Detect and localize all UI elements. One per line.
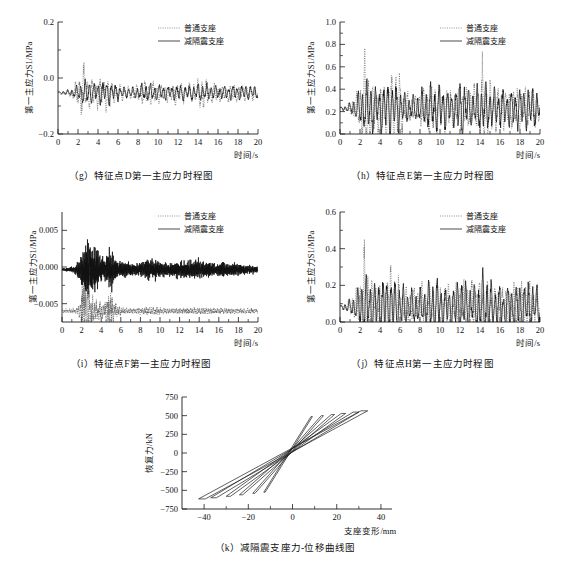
x-tick-label: 20: [254, 325, 263, 335]
panel-j-chart: 0.00.20.40.602468101214161820时间/s第一主应力S1…: [282, 190, 563, 360]
traces-group: [340, 239, 540, 322]
legend: 普通支座减隔震支座: [440, 211, 506, 234]
y-tick-label: −250: [160, 467, 178, 477]
x-tick-label: 4: [378, 137, 383, 147]
legend: 普通支座减隔震支座: [440, 23, 506, 46]
x-tick-label: 10: [436, 137, 445, 147]
y-tick-label: 0.0: [325, 317, 336, 327]
x-tick-label: 10: [156, 325, 165, 335]
x-tick-label: 14: [476, 137, 485, 147]
x-tick-label: 14: [476, 325, 485, 335]
x-tick-label: 0: [60, 325, 64, 335]
x-axis-title: 时间/s: [516, 150, 540, 160]
panel-h-chart: 0.00.20.40.60.81.002468101214161820时间/s第…: [282, 0, 563, 172]
x-tick-label: 2: [358, 137, 362, 147]
traces-group: [62, 239, 258, 322]
y-tick-label: 0.0: [43, 73, 54, 83]
x-tick-label: 4: [99, 325, 104, 335]
panel-g: −0.20.00.202468101214161820时间/s第一主应力S1/M…: [0, 0, 282, 190]
x-tick-label: −40: [197, 512, 210, 522]
y-tick-label: 0.2: [325, 280, 336, 290]
y-tick-label: −500: [160, 485, 178, 495]
legend-dotted-label: 普通支座: [466, 211, 498, 221]
y-tick-label: 1.0: [325, 17, 336, 27]
x-tick-label: 2: [76, 137, 80, 147]
traces-group: [340, 48, 540, 134]
hysteresis-loop: [199, 411, 368, 499]
x-tick-label: 10: [436, 325, 445, 335]
x-tick-label: 0: [56, 137, 60, 147]
legend-solid-label: 减隔震支座: [184, 36, 224, 46]
legend-dotted-label: 普通支座: [184, 211, 216, 221]
panel-g-plot: −0.20.00.202468101214161820时间/s第一主应力S1/M…: [24, 17, 262, 160]
panel-h-caption: （h）特征点E第一主应力时程图: [282, 168, 563, 182]
panel-i-caption: （i）特征点F第一主应力时程图: [0, 356, 282, 370]
x-tick-label: 40: [377, 512, 386, 522]
x-tick-label: 6: [119, 325, 123, 335]
y-tick-label: 500: [165, 411, 178, 421]
y-axis-title: 第一主应力S1/MPa: [306, 231, 316, 304]
series-solid-trace: [58, 79, 258, 106]
x-tick-label: 20: [332, 512, 341, 522]
x-tick-label: 12: [456, 325, 465, 335]
y-tick-label: 0.8: [325, 39, 336, 49]
y-tick-label: 0.6: [325, 207, 336, 217]
x-tick-label: 6: [116, 137, 120, 147]
x-tick-label: 16: [496, 325, 505, 335]
x-tick-label: 0: [338, 137, 342, 147]
loops-group: [199, 411, 368, 499]
x-tick-label: 18: [234, 325, 243, 335]
y-tick-label: 250: [165, 429, 178, 439]
x-tick-label: 16: [496, 137, 505, 147]
x-axis-title: 时间/s: [234, 338, 258, 348]
figure-container: −0.20.00.202468101214161820时间/s第一主应力S1/M…: [0, 0, 563, 571]
y-tick-label: 0.6: [325, 62, 336, 72]
x-tick-label: 18: [516, 325, 525, 335]
y-tick-label: 750: [165, 392, 178, 402]
panel-i-plot: −0.0050.0000.00502468101214161820时间/s第一主…: [28, 211, 262, 348]
x-tick-label: 8: [418, 325, 422, 335]
x-tick-label: 8: [418, 137, 422, 147]
y-tick-label: 0.000: [39, 262, 58, 272]
legend-dotted-label: 普通支座: [466, 23, 498, 33]
y-tick-label: 0.2: [325, 107, 336, 117]
x-tick-label: 6: [398, 137, 402, 147]
panel-j: 0.00.20.40.602468101214161820时间/s第一主应力S1…: [282, 190, 563, 380]
panel-g-caption: （g）特征点D第一主应力时程图: [0, 168, 282, 182]
y-tick-label: −0.2: [39, 129, 54, 139]
series-dotted-trace: [58, 62, 258, 115]
x-tick-label: 20: [536, 137, 545, 147]
x-tick-label: 8: [136, 137, 140, 147]
panel-h: 0.00.20.40.60.81.002468101214161820时间/s第…: [282, 0, 563, 190]
y-axis-title: 第一主应力S1/MPa: [306, 42, 316, 115]
panel-j-plot: 0.00.20.40.602468101214161820时间/s第一主应力S1…: [306, 207, 544, 348]
traces-group: [58, 62, 258, 115]
legend-solid-label: 减隔震支座: [466, 36, 506, 46]
x-tick-label: 20: [254, 137, 263, 147]
x-tick-label: 18: [234, 137, 243, 147]
panel-g-chart: −0.20.00.202468101214161820时间/s第一主应力S1/M…: [0, 0, 282, 172]
x-tick-label: 0: [338, 325, 342, 335]
x-tick-label: 2: [358, 325, 362, 335]
y-tick-label: 0.2: [43, 17, 54, 27]
x-tick-label: 14: [194, 137, 203, 147]
x-tick-label: −20: [242, 512, 255, 522]
x-tick-label: 12: [175, 325, 184, 335]
x-tick-label: 16: [215, 325, 224, 335]
x-tick-label: 12: [174, 137, 183, 147]
y-axis-title: 第一主应力S1/MPa: [28, 231, 38, 304]
x-tick-label: 2: [79, 325, 83, 335]
x-tick-label: 10: [154, 137, 163, 147]
x-tick-label: 6: [398, 325, 402, 335]
panel-k-chart: −750−500−2500250500750−40−2002040支座变形/mm…: [120, 385, 450, 545]
legend: 普通支座减隔震支座: [158, 211, 224, 234]
panel-h-plot: 0.00.20.40.60.81.002468101214161820时间/s第…: [306, 17, 544, 160]
x-tick-label: 12: [456, 137, 465, 147]
y-axis-title: 第一主应力S1/MPa: [24, 42, 34, 115]
panel-k-plot: −750−500−2500250500750−40−2002040支座变形/mm…: [144, 392, 396, 536]
x-axis-title: 时间/s: [516, 338, 540, 348]
series-solid-trace: [340, 79, 540, 134]
x-tick-label: 16: [214, 137, 223, 147]
x-tick-label: 20: [536, 325, 545, 335]
panel-k-caption: （k）减隔震支座力-位移曲线图: [120, 540, 450, 554]
